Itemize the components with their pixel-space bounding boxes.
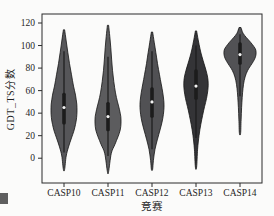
y-tick-label: 120 <box>21 18 36 28</box>
y-tick-label: 20 <box>26 131 36 141</box>
x-axis-title: 竞赛 <box>141 198 163 213</box>
plot-svg: 020406080100120CASP10CASP11CASP12CASP13C… <box>0 0 274 216</box>
median-dot <box>194 85 197 88</box>
iqr-box <box>194 69 198 99</box>
category-label: CASP13 <box>179 188 213 198</box>
median-dot <box>238 53 241 56</box>
y-tick-label: 60 <box>26 86 36 96</box>
category-label: CASP12 <box>135 188 169 198</box>
category-label: CASP11 <box>92 188 125 198</box>
category-label: CASP10 <box>47 188 81 198</box>
y-tick-label: 40 <box>26 108 36 118</box>
violin-figure: 020406080100120CASP10CASP11CASP12CASP13C… <box>0 0 274 216</box>
y-tick-label: 80 <box>26 63 36 73</box>
y-tick-label: 100 <box>21 41 36 51</box>
median-dot <box>150 100 153 103</box>
scan-artifact <box>0 193 8 204</box>
median-dot <box>62 106 65 109</box>
y-tick-label: 0 <box>30 153 35 163</box>
y-axis-title: GDT_TS分数 <box>2 60 17 140</box>
median-dot <box>106 115 109 118</box>
category-label: CASP14 <box>223 188 257 198</box>
